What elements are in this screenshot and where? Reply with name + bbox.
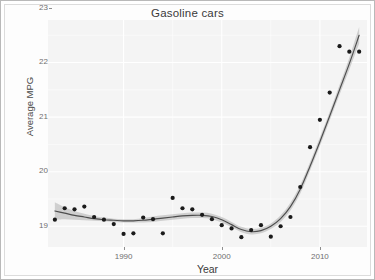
smooth-trend-line: [55, 35, 359, 231]
data-point: [53, 218, 57, 222]
data-point: [161, 231, 165, 235]
data-point: [121, 232, 125, 236]
data-point: [180, 206, 184, 210]
chart-title: Gasoline cars: [5, 7, 370, 19]
x-tick-mark: [124, 247, 125, 250]
data-point: [102, 218, 106, 222]
data-point: [229, 226, 233, 230]
data-point: [239, 235, 243, 239]
y-tick-label: 23: [14, 4, 48, 12]
data-point: [288, 215, 292, 219]
data-point: [141, 215, 145, 219]
data-point: [112, 222, 116, 226]
data-point-group: [53, 44, 361, 239]
data-point: [171, 196, 175, 200]
data-point: [328, 90, 332, 94]
data-point: [259, 223, 263, 227]
y-tick-label: 20: [14, 166, 48, 175]
data-point: [151, 217, 155, 221]
x-tick-mark: [320, 247, 321, 250]
data-point: [72, 207, 76, 211]
data-point: [82, 205, 86, 209]
x-tick-label: 2000: [202, 252, 242, 261]
data-point: [308, 145, 312, 149]
x-tick-label: 1990: [104, 252, 144, 261]
plot-panel: [48, 20, 367, 247]
data-point: [337, 44, 341, 48]
data-point: [210, 217, 214, 221]
x-axis: 199020002010: [48, 247, 367, 263]
confidence-ribbon: [55, 27, 359, 234]
data-point: [347, 50, 351, 54]
chart-figure: Gasoline cars Average MPG 1920212223 199…: [0, 0, 375, 280]
data-point: [249, 228, 253, 232]
data-point: [298, 185, 302, 189]
data-point: [92, 215, 96, 219]
data-point: [279, 224, 283, 228]
gridlines-major-x: [124, 20, 320, 247]
plot-svg: [48, 20, 367, 247]
data-point: [190, 207, 194, 211]
data-point: [220, 223, 224, 227]
x-tick-label: 2010: [300, 252, 340, 261]
data-point: [131, 231, 135, 235]
gridlines-major-y: [48, 20, 367, 226]
data-point: [200, 213, 204, 217]
data-point: [357, 50, 361, 54]
x-axis-title: Year: [48, 263, 367, 275]
data-point: [63, 206, 67, 210]
data-point: [318, 118, 322, 122]
y-tick-label: 21: [14, 112, 48, 121]
y-tick-mark: [49, 8, 52, 9]
y-tick-label: 19: [14, 221, 48, 230]
figure-inner-frame: Gasoline cars Average MPG 1920212223 199…: [4, 4, 371, 276]
x-tick-mark: [222, 247, 223, 250]
data-point: [269, 235, 273, 239]
y-axis: 1920212223: [5, 20, 48, 247]
y-tick-label: 22: [14, 57, 48, 66]
